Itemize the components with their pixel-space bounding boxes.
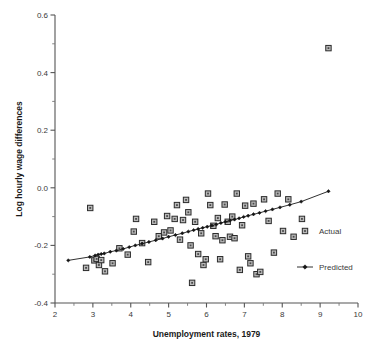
predicted-point	[167, 235, 170, 238]
x-tick-label: 3	[91, 310, 96, 319]
x-tick-label: 2	[53, 310, 58, 319]
actual-point-core	[182, 219, 184, 221]
actual-point-core	[203, 264, 205, 266]
y-tick-label: 0.4	[37, 69, 49, 78]
actual-point-core	[241, 224, 243, 226]
actual-point-core	[205, 258, 207, 260]
actual-point-core	[174, 218, 176, 220]
legend-label: Predicted	[319, 263, 353, 272]
x-tick-label: 6	[204, 310, 209, 319]
predicted-point	[252, 213, 255, 216]
x-tick-label: 5	[166, 310, 171, 319]
actual-point-core	[96, 258, 98, 260]
actual-point-core	[250, 262, 252, 264]
predicted-point	[206, 225, 209, 228]
actual-point-core	[282, 230, 284, 232]
predicted-point	[109, 250, 112, 253]
actual-point-core	[158, 235, 160, 237]
legend-item-actual[interactable]: Actual	[302, 227, 341, 236]
actual-point-core	[236, 193, 238, 195]
actual-point-core	[301, 218, 303, 220]
predicted-point	[100, 252, 103, 255]
predicted-point	[128, 245, 131, 248]
predicted-point	[88, 255, 91, 258]
x-tick-label: 8	[280, 310, 285, 319]
scatter-plot: ActualPredicted 2345678910-0.4-0.20.00.2…	[0, 0, 378, 350]
predicted-point	[271, 208, 274, 211]
actual-point-core	[217, 217, 219, 219]
y-tick-label: 0.6	[37, 11, 49, 20]
legend-item-predicted[interactable]: Predicted	[297, 263, 353, 272]
predicted-point	[174, 233, 177, 236]
actual-point-core	[135, 218, 137, 220]
x-tick-label: 9	[318, 310, 323, 319]
predicted-point	[103, 252, 106, 255]
predicted-point	[258, 211, 261, 214]
y-tick-label: 0.2	[37, 126, 49, 135]
actual-point-core	[263, 198, 265, 200]
y-axis-title: Log hourly wage differences	[14, 101, 24, 217]
x-tick-label: 7	[242, 310, 247, 319]
y-tick-label: 0.0	[37, 184, 49, 193]
actual-point-core	[277, 193, 279, 195]
actual-point-core	[273, 252, 275, 254]
predicted-point	[187, 230, 190, 233]
predicted-point	[242, 215, 245, 218]
actual-point-core	[166, 215, 168, 217]
actual-point-core	[197, 253, 199, 255]
predicted-point	[299, 200, 302, 203]
actual-point-core	[133, 231, 135, 233]
y-tick-label: -0.2	[34, 241, 48, 250]
predicted-point	[67, 259, 70, 262]
predicted-point	[327, 190, 330, 193]
actual-point-core	[209, 204, 211, 206]
predicted-point	[246, 214, 249, 217]
actual-point-core	[328, 47, 330, 49]
predicted-point	[181, 232, 184, 235]
predicted-point	[219, 221, 222, 224]
actual-point-core	[268, 220, 270, 222]
actual-point-core	[104, 270, 106, 272]
actual-point-core	[191, 282, 193, 284]
actual-point-core	[231, 216, 233, 218]
actual-point-core	[170, 230, 172, 232]
y-tick-label: -0.4	[34, 299, 48, 308]
actual-point-core	[147, 261, 149, 263]
actual-point-core	[215, 235, 217, 237]
actual-point-core	[89, 207, 91, 209]
predicted-point	[147, 240, 150, 243]
actual-point-core	[98, 264, 100, 266]
predicted-point	[278, 206, 281, 209]
chart-figure: ActualPredicted 2345678910-0.4-0.20.00.2…	[0, 0, 378, 350]
actual-point-core	[112, 262, 114, 264]
legend-diamond-icon	[303, 265, 307, 269]
actual-point-core	[207, 193, 209, 195]
legend-square-core-icon	[304, 230, 306, 232]
actual-point-core	[194, 221, 196, 223]
actual-point-core	[163, 232, 165, 234]
actual-point-core	[127, 254, 129, 256]
actual-point-core	[229, 236, 231, 238]
x-axis-title: Unemployment rates, 1979	[153, 329, 261, 339]
actual-point-core	[247, 255, 249, 257]
actual-point-core	[253, 203, 255, 205]
predicted-point	[237, 217, 240, 220]
predicted-point	[192, 228, 195, 231]
chart-legend[interactable]: ActualPredicted	[297, 227, 353, 272]
actual-point-core	[287, 198, 289, 200]
x-tick-label: 10	[354, 310, 363, 319]
actual-point-core	[222, 239, 224, 241]
actual-point-core	[179, 239, 181, 241]
actual-point-core	[224, 204, 226, 206]
actual-point-core	[239, 269, 241, 271]
actual-point-core	[85, 267, 87, 269]
actual-point-core	[153, 221, 155, 223]
legend-label: Actual	[319, 227, 341, 236]
actual-point-core	[100, 259, 102, 261]
actual-point-core	[185, 199, 187, 201]
predicted-point	[134, 244, 137, 247]
actual-point-core	[176, 204, 178, 206]
predicted-point	[264, 209, 267, 212]
actual-point-core	[293, 236, 295, 238]
actual-point-core	[234, 237, 236, 239]
